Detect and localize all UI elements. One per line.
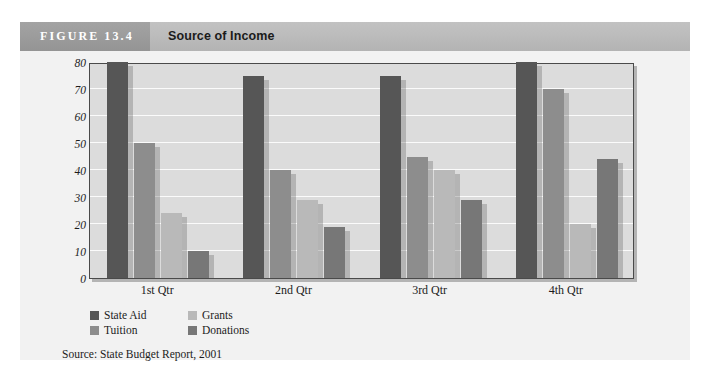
y-tick-label: 80: [60, 57, 86, 69]
y-tick-label: 60: [60, 111, 86, 123]
bar: [380, 76, 401, 279]
x-tick-label: 3rd Qtr: [412, 283, 447, 298]
bar: [324, 227, 345, 278]
bar-group: [90, 64, 226, 278]
y-tick-label: 20: [60, 219, 86, 231]
bar-shadow: [482, 204, 487, 278]
source-note: Source: State Budget Report, 2001: [62, 348, 222, 360]
y-tick-label: 10: [60, 246, 86, 258]
figure-title: Source of Income: [168, 29, 274, 43]
bar-shadow: [209, 255, 214, 278]
y-axis-tick-labels: 01020304050607080: [58, 63, 86, 283]
legend-label-donations: Donations: [202, 324, 249, 336]
bar: [270, 170, 291, 278]
legend-item-grants: Grants: [188, 309, 233, 321]
bar: [297, 200, 318, 278]
bar: [461, 200, 482, 278]
bar: [434, 170, 455, 278]
bar-shadow: [345, 231, 350, 278]
x-tick-label: 2nd Qtr: [275, 283, 312, 298]
legend-item-tuition: Tuition: [90, 324, 137, 336]
bar: [161, 213, 182, 278]
chart-area: 01020304050607080 1st Qtr2nd Qtr3rd Qtr4…: [20, 51, 690, 360]
x-tick-label: 4th Qtr: [549, 283, 583, 298]
figure-number-label: FIGURE 13.4: [40, 29, 134, 44]
bar-shadow: [591, 228, 596, 278]
bar-shadow: [264, 80, 269, 279]
y-tick-label: 30: [60, 192, 86, 204]
bar-shadow: [401, 80, 406, 279]
bar-series-layer: [90, 64, 633, 278]
bar-shadow: [182, 217, 187, 278]
bar: [107, 62, 128, 278]
bar-shadow: [128, 66, 133, 278]
bar: [188, 251, 209, 278]
legend-label-tuition: Tuition: [104, 324, 137, 336]
y-tick-label: 40: [60, 165, 86, 177]
bar-group: [499, 64, 635, 278]
x-axis-tick-labels: 1st Qtr2nd Qtr3rd Qtr4th Qtr: [89, 283, 634, 301]
legend-swatch-tuition: [90, 326, 99, 335]
legend-swatch-grants: [188, 311, 197, 320]
y-tick-label: 70: [60, 84, 86, 96]
legend-label-grants: Grants: [202, 309, 233, 321]
bar: [570, 224, 591, 278]
legend-item-donations: Donations: [188, 324, 249, 336]
bar-shadow: [455, 174, 460, 278]
legend-swatch-donations: [188, 326, 197, 335]
bar-shadow: [155, 147, 160, 278]
y-tick-label: 0: [60, 273, 86, 285]
bar-group: [363, 64, 499, 278]
bar-shadow: [318, 204, 323, 278]
bar: [407, 157, 428, 279]
bar: [543, 89, 564, 278]
figure-panel: FIGURE 13.4 Source of Income 01020304050…: [20, 22, 690, 360]
plot-area: [89, 63, 634, 279]
figure-header-band: FIGURE 13.4 Source of Income: [20, 22, 690, 51]
bar: [597, 159, 618, 278]
chart-legend: State Aid Tuition Grants Donations: [90, 309, 330, 341]
legend-label-state-aid: State Aid: [104, 309, 147, 321]
bar-shadow: [428, 161, 433, 279]
legend-swatch-state-aid: [90, 311, 99, 320]
bar: [516, 62, 537, 278]
bar-shadow: [618, 163, 623, 278]
bar-shadow: [537, 66, 542, 278]
bar-shadow: [291, 174, 296, 278]
legend-item-state-aid: State Aid: [90, 309, 147, 321]
bar-group: [226, 64, 362, 278]
bar: [134, 143, 155, 278]
x-tick-label: 1st Qtr: [141, 283, 174, 298]
bar: [243, 76, 264, 279]
bar-shadow: [564, 93, 569, 278]
y-tick-label: 50: [60, 138, 86, 150]
